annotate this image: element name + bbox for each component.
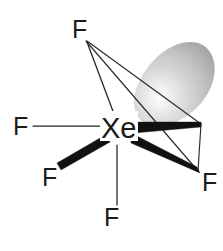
bond-xe-f-top (87, 42, 114, 114)
center-atom-label: Xe (101, 112, 136, 144)
center-atom: Xe (100, 111, 138, 144)
bond-xe-right-upper (134, 122, 201, 133)
molecule-diagram-canvas: Xe F F F F F (0, 0, 223, 251)
fluorine-label-left: F (13, 112, 28, 140)
fluorine-label-top: F (72, 15, 87, 43)
bond-xe-f-bottom-right (131, 133, 200, 173)
fluorine-label-bottom-right: F (202, 168, 217, 196)
fluorine-label-bottom-left: F (42, 163, 57, 191)
molecule-figure: Xe F F F F F (0, 0, 223, 251)
fluorine-label-bottom: F (104, 203, 119, 231)
